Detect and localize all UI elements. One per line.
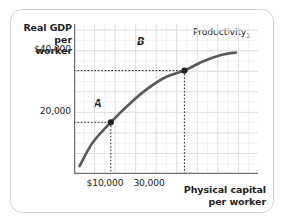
axes bbox=[74, 24, 258, 174]
x-axis-title: Physical capital per worker bbox=[168, 184, 266, 207]
x-axis-title-line1: Physical capital bbox=[184, 184, 266, 195]
data-point-b bbox=[181, 67, 187, 73]
x-axis-title-line2: per worker bbox=[209, 196, 266, 207]
x-axis-tick-label-30000: 30,000 bbox=[123, 177, 175, 188]
plot-area bbox=[74, 24, 258, 174]
y-axis-title-line1: Real GDP bbox=[23, 22, 72, 33]
productivity-curve bbox=[80, 52, 236, 166]
grid-major bbox=[74, 24, 258, 174]
y-axis-tick-label-40000: $40,000 bbox=[18, 43, 71, 54]
y-axis-tick-label-20000: 20,000 bbox=[18, 105, 71, 116]
grid-minor bbox=[74, 24, 258, 174]
productivity-curve-figure: Real GDP per worker Physical capital per… bbox=[0, 0, 286, 224]
data-point-a bbox=[108, 119, 114, 125]
